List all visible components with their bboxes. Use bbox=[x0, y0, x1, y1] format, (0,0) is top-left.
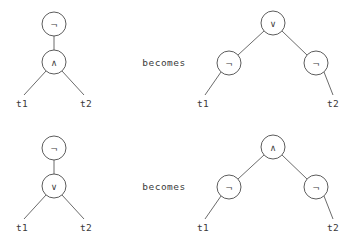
leaf-t1: t1 bbox=[197, 222, 209, 233]
edge-and-to-not-right bbox=[282, 155, 307, 179]
leaf-t2: t2 bbox=[327, 222, 339, 233]
edge-and-to-t1 bbox=[24, 71, 46, 95]
node-or: ∨ bbox=[42, 174, 66, 198]
leaf-t2: t2 bbox=[80, 222, 92, 233]
rule-1-group: ¬ ∧ t1 t2 becomes ∨ ¬ bbox=[16, 11, 339, 109]
node-not-left: ¬ bbox=[217, 51, 241, 75]
rewrite-rules-figure: ¬ ∧ t1 t2 becomes ∨ ¬ bbox=[0, 0, 346, 246]
leaf-t2: t2 bbox=[327, 98, 339, 109]
node-not-right: ¬ bbox=[304, 51, 328, 75]
tree-1-left: ¬ ∧ t1 t2 bbox=[16, 12, 92, 109]
edge-not-right-to-t2 bbox=[324, 72, 333, 95]
node-label-and: ∧ bbox=[51, 58, 58, 68]
node-label-not-right: ¬ bbox=[312, 183, 320, 193]
node-label-and: ∧ bbox=[270, 143, 277, 153]
connector-label-1: becomes bbox=[142, 57, 186, 68]
leaf-t1: t1 bbox=[16, 98, 28, 109]
node-and: ∧ bbox=[42, 50, 66, 74]
tree-2-left: ¬ ∨ t1 t2 bbox=[16, 136, 92, 233]
node-not-root: ¬ bbox=[42, 136, 66, 160]
tree-1-right: ∨ ¬ ¬ t1 t2 bbox=[197, 11, 339, 109]
connector-label-2: becomes bbox=[142, 181, 186, 192]
node-or-root: ∨ bbox=[261, 11, 285, 35]
leaf-t1: t1 bbox=[197, 98, 209, 109]
node-and-root: ∧ bbox=[261, 135, 285, 159]
rule-2-group: ¬ ∨ t1 t2 becomes ∧ ¬ bbox=[16, 135, 339, 233]
node-label-not-left: ¬ bbox=[225, 183, 233, 193]
edge-not-left-to-t1 bbox=[205, 196, 221, 219]
edge-or-to-t2 bbox=[62, 195, 84, 219]
node-label-or: ∨ bbox=[270, 19, 277, 29]
edge-or-to-not-right bbox=[282, 31, 307, 55]
node-not-left: ¬ bbox=[217, 175, 241, 199]
edge-and-to-t2 bbox=[62, 71, 84, 95]
node-label-not: ¬ bbox=[50, 20, 58, 30]
edge-or-to-not-left bbox=[238, 31, 264, 55]
node-not-right: ¬ bbox=[304, 175, 328, 199]
node-label-not-right: ¬ bbox=[312, 59, 320, 69]
node-label-or: ∨ bbox=[51, 182, 58, 192]
edge-not-left-to-t1 bbox=[205, 72, 221, 95]
tree-2-right: ∧ ¬ ¬ t1 t2 bbox=[197, 135, 339, 233]
node-label-not-left: ¬ bbox=[225, 59, 233, 69]
edge-or-to-t1 bbox=[24, 195, 46, 219]
leaf-t2: t2 bbox=[80, 98, 92, 109]
leaf-t1: t1 bbox=[16, 222, 28, 233]
node-not-root: ¬ bbox=[42, 12, 66, 36]
edge-not-right-to-t2 bbox=[324, 196, 333, 219]
edge-and-to-not-left bbox=[238, 155, 264, 179]
node-label-not: ¬ bbox=[50, 144, 58, 154]
